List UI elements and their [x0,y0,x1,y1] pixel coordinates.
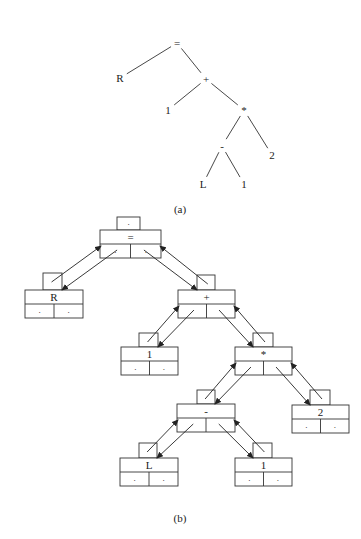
left-child-pointer: . [305,420,307,430]
tree-edge [248,116,268,148]
right-child-pointer: . [277,473,279,483]
tree-edge [207,152,219,177]
child-pointer-arrow [144,250,197,290]
caption-b: (b) [174,512,187,525]
expression-tree-diagram: =R+1*-2L1 (a) .=..R..+1..*-2..L..1.. (b) [0,0,361,539]
node-plus: + [178,275,235,318]
node-label: 1 [147,348,153,360]
node-two: 2.. [292,390,349,433]
tree-edge [174,83,200,105]
node-label: + [203,291,209,303]
right-child-pointer: . [162,473,164,483]
node-label: R [50,291,58,303]
tree-node-L: L [200,178,207,190]
node-label: L [146,459,153,471]
parent-pointer-cell [197,390,215,404]
node-minus: - [177,390,235,432]
left-child-pointer: . [114,245,116,255]
left-child-pointer: . [133,473,135,483]
left-child-pointer: . [248,473,250,483]
child-pointer-arrow [276,367,310,405]
node-label: - [204,405,208,417]
node-label: = [127,231,133,243]
parent-pointer-cell [139,333,158,347]
node-label: * [261,348,267,360]
right-child-pointer: . [145,245,147,255]
parent-pointer-arrow [147,420,178,452]
parent-pointer-arrow [234,420,264,452]
tree-edge [181,48,201,72]
parent-pointer-cell [310,390,330,405]
parent-pointer-arrow [148,306,179,342]
tree-node-R: R [116,72,124,84]
child-pointer-arrow [219,424,253,458]
tree-node-minus: - [220,140,224,152]
parent-pointer-arrow [205,363,236,399]
tree-edge [211,83,237,105]
linked-node-tree: .=..R..+1..*-2..L..1.. [25,217,349,486]
child-pointer-arrow [219,310,253,347]
node-label: 2 [318,406,324,418]
abstract-syntax-tree: =R+1*-2L1 [116,37,274,190]
node-one2: 1.. [235,443,292,486]
node-star: * [235,333,292,375]
right-child-pointer: . [67,305,69,315]
left-child-pointer: . [134,362,136,372]
node-eq: .=.. [100,217,161,258]
parent-pointer-arrow [291,363,322,399]
tree-edge [127,47,171,74]
child-pointer-arrow [158,310,194,347]
tree-node-star: * [241,104,247,116]
node-label: 1 [261,459,267,471]
tree-node-two: 2 [269,149,275,161]
parent-pointer-arrow [52,246,101,282]
tree-edge [226,152,240,177]
tree-node-eq: = [174,37,180,49]
tree-node-plus: + [203,73,209,85]
tree-node-one2: 1 [241,178,247,190]
tree-edge [226,116,240,139]
tree-node-one1: 1 [165,104,171,116]
parent-pointer-arrow [160,246,208,284]
left-child-pointer: . [38,305,40,315]
right-child-pointer: . [334,420,336,430]
child-pointer-arrow [62,250,117,290]
pointer-dot: . [127,217,129,227]
caption-a: (a) [174,203,187,216]
child-pointer-arrow [157,424,193,458]
child-pointer-arrow [215,367,251,404]
right-child-pointer: . [163,362,165,372]
parent-pointer-arrow [234,306,265,342]
